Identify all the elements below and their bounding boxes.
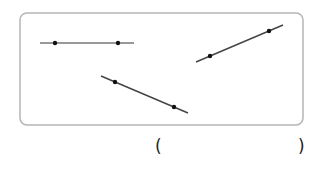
answer-close-paren: ) (298, 138, 305, 155)
point-dot (208, 54, 212, 58)
horizontal-line (40, 41, 134, 45)
descending-line (101, 76, 188, 113)
answer-blank[interactable] (170, 136, 290, 158)
answer-open-paren: ( (155, 138, 162, 155)
point-dot (267, 29, 271, 33)
point-dot (172, 105, 176, 109)
point-dot (53, 41, 57, 45)
ascending-line (196, 25, 283, 62)
figure-frame (20, 13, 303, 125)
point-dot (113, 80, 117, 84)
point-dot (116, 41, 120, 45)
